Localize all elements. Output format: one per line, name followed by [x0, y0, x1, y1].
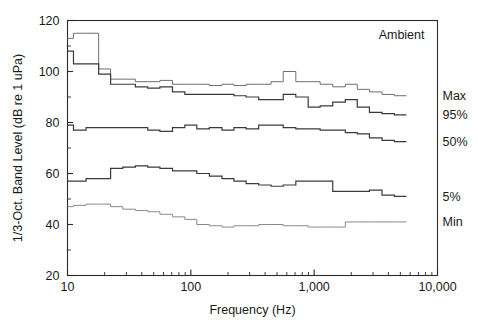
series-label-5pct: 5%: [443, 190, 461, 204]
series-line-95pct: [68, 51, 407, 115]
series-line-max: [68, 33, 407, 95]
y-axis-tick-labels: 20406080100120: [39, 14, 60, 283]
y-tick-label: 120: [39, 14, 60, 28]
x-axis-title: Frequency (Hz): [209, 303, 295, 317]
series-line-min: [68, 204, 407, 227]
series-line-5pct: [68, 166, 407, 197]
plot-frame: [68, 21, 438, 276]
chart-canvas: 101001,00010,000 20406080100120 Max95%50…: [0, 0, 478, 326]
axis-ticks: [68, 21, 438, 276]
y-tick-label: 80: [46, 116, 60, 130]
y-tick-label: 20: [46, 269, 60, 283]
ambient-annotation: Ambient: [379, 28, 425, 42]
y-tick-label: 40: [46, 218, 60, 232]
x-axis-tick-labels: 101001,00010,000: [61, 280, 457, 294]
x-tick-label: 10,000: [418, 280, 456, 294]
series-label-min: Min: [443, 215, 463, 229]
y-tick-label: 100: [39, 65, 60, 79]
x-tick-label: 10: [61, 280, 75, 294]
y-tick-label: 60: [46, 167, 60, 181]
x-tick-label: 100: [180, 280, 201, 294]
x-tick-label: 1,000: [299, 280, 330, 294]
series-label-50pct: 50%: [443, 135, 468, 149]
data-curves: [68, 33, 407, 227]
series-line-50pct: [68, 125, 407, 142]
series-label-95pct: 95%: [443, 108, 468, 122]
series-labels: Max95%50%5%Min: [443, 89, 468, 229]
series-label-max: Max: [443, 89, 467, 103]
ambient-noise-chart-figure: 101001,00010,000 20406080100120 Max95%50…: [0, 0, 478, 326]
y-axis-title: 1/3-Oct. Band Level (dB re 1 uPa): [11, 54, 25, 242]
